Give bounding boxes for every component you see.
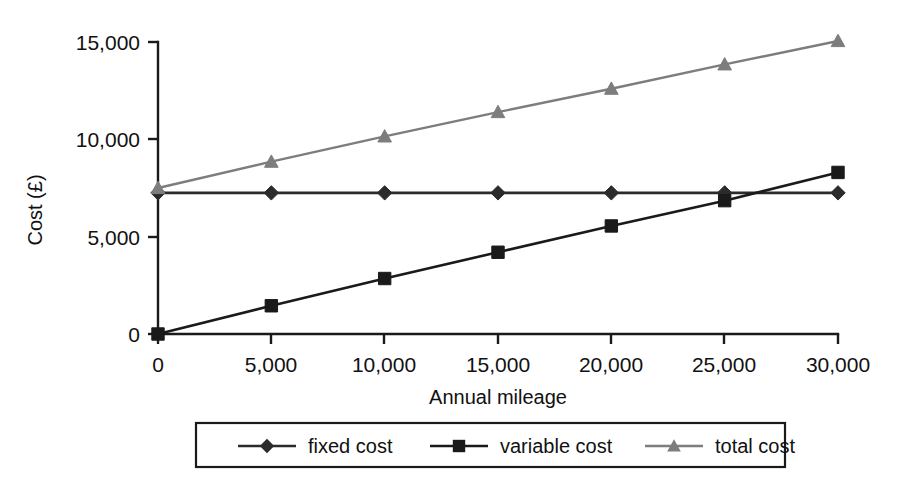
- y-axis-title: Cost (£): [24, 174, 46, 245]
- x-tick-label-5000: 5,000: [245, 353, 298, 376]
- chart-svg: 15,000 10,000 5,000 0 Cost (£) 0 5,000 1…: [0, 0, 921, 484]
- legend-label-1: variable cost: [500, 435, 613, 457]
- data-point-variable-cost-5000: [265, 300, 277, 312]
- x-tick-label-20000: 20,000: [579, 353, 643, 376]
- x-tick-label-0: 0: [152, 353, 164, 376]
- y-tick-label-10000: 10,000: [76, 128, 140, 151]
- x-axis-title: Annual mileage: [429, 386, 567, 408]
- x-tick-label-15000: 15,000: [466, 353, 530, 376]
- cost-vs-mileage-chart: 15,000 10,000 5,000 0 Cost (£) 0 5,000 1…: [0, 0, 921, 484]
- legend-label-0: fixed cost: [308, 435, 393, 457]
- data-point-variable-cost-10000: [378, 272, 390, 284]
- data-point-variable-cost-20000: [605, 220, 617, 232]
- chart-legend: fixed costvariable costtotal cost: [196, 423, 795, 467]
- square-marker-icon: [453, 440, 465, 452]
- legend-label-2: total cost: [715, 435, 795, 457]
- x-tick-label-25000: 25,000: [692, 353, 756, 376]
- y-tick-label-0: 0: [128, 323, 140, 346]
- data-point-variable-cost-0: [152, 328, 164, 340]
- x-tick-label-30000: 30,000: [806, 353, 870, 376]
- data-point-variable-cost-15000: [492, 246, 504, 258]
- data-point-variable-cost-30000: [832, 166, 844, 178]
- x-tick-label-10000: 10,000: [352, 353, 416, 376]
- y-tick-label-5000: 5,000: [87, 226, 140, 249]
- data-point-variable-cost-25000: [718, 194, 730, 206]
- y-tick-label-15000: 15,000: [76, 31, 140, 54]
